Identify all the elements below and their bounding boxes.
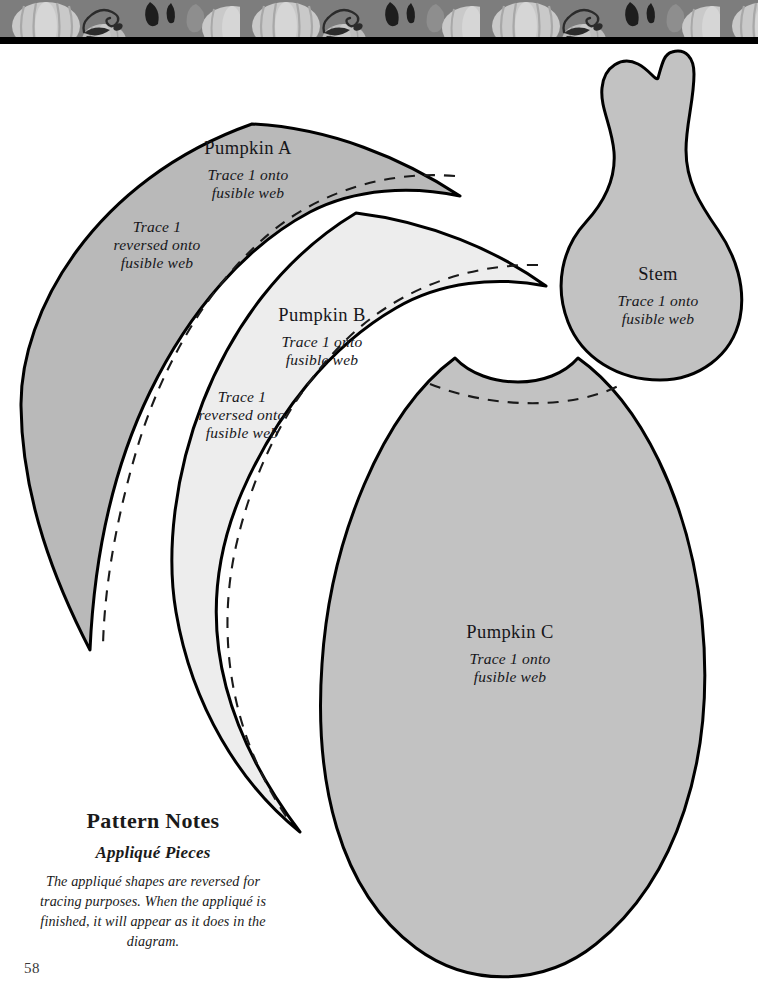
piece-name-stem: Stem [568,264,748,285]
piece-name-pumpkin-b: Pumpkin B [222,305,422,326]
label-pumpkin-c: Pumpkin C Trace 1 onto fusible web [410,622,610,686]
piece-note-stem: Trace 1 onto fusible web [568,292,748,328]
label-pumpkin-a: Pumpkin A Trace 1 onto fusible web [148,138,348,202]
label-pumpkin-b: Pumpkin B Trace 1 onto fusible web [222,305,422,369]
pattern-page: Pumpkin A Trace 1 onto fusible web Trace… [0,0,758,1004]
pattern-notes-block: Pattern Notes Appliqué Pieces The appliq… [24,808,282,952]
pattern-notes-title: Pattern Notes [24,808,282,834]
stem-shape [561,51,742,380]
label-pumpkin-a-reversed: Trace 1 reversed onto fusible web [72,218,242,272]
piece-note-pumpkin-a: Trace 1 onto fusible web [148,166,348,202]
piece-name-pumpkin-a: Pumpkin A [148,138,348,159]
piece-name-pumpkin-c: Pumpkin C [410,622,610,643]
piece-note-pumpkin-c: Trace 1 onto fusible web [410,650,610,686]
label-pumpkin-b-reversed: Trace 1 reversed onto fusible web [152,388,332,442]
piece-note-reversed-pumpkin-b: Trace 1 reversed onto fusible web [152,388,332,442]
label-stem: Stem Trace 1 onto fusible web [568,264,748,328]
piece-note-reversed-pumpkin-a: Trace 1 reversed onto fusible web [72,218,242,272]
piece-note-pumpkin-b: Trace 1 onto fusible web [222,333,422,369]
pattern-notes-subtitle: Appliqué Pieces [24,843,282,863]
pattern-notes-body: The appliqué shapes are reversed for tra… [24,871,282,952]
page-number: 58 [24,960,40,977]
